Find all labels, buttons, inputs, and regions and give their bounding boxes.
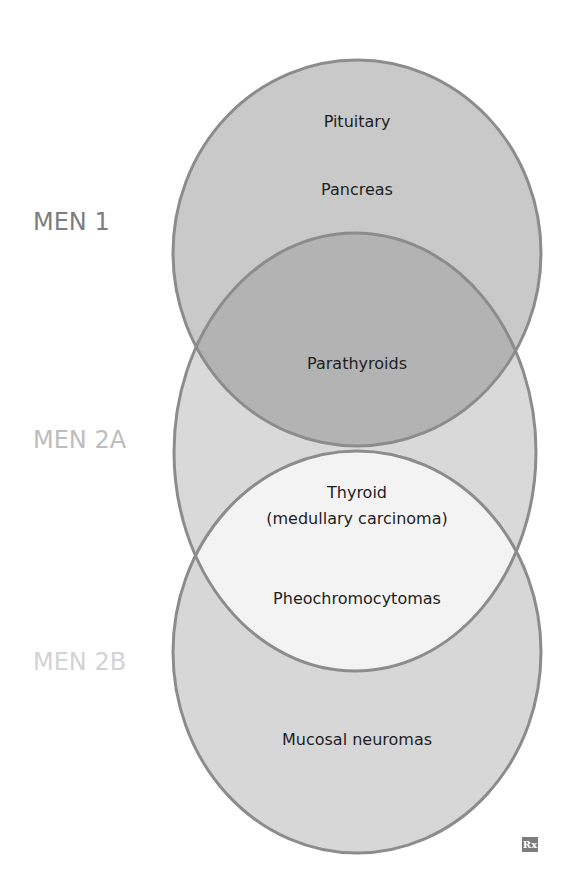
men2b-label: MEN 2B <box>33 648 126 676</box>
parathyroids-label: Parathyroids <box>157 353 557 375</box>
pancreas-label: Pancreas <box>157 179 557 201</box>
rx-logo-icon: Rx <box>522 837 538 852</box>
thyroid-label: Thyroid <box>157 482 557 504</box>
mucosal-neuromas-label: Mucosal neuromas <box>157 729 557 751</box>
pituitary-label: Pituitary <box>157 111 557 133</box>
men1-label: MEN 1 <box>33 208 110 236</box>
medullary-carcinoma-label: (medullary carcinoma) <box>157 508 557 530</box>
men2a-label: MEN 2A <box>33 426 126 454</box>
pheochromocytomas-label: Pheochromocytomas <box>157 588 557 610</box>
